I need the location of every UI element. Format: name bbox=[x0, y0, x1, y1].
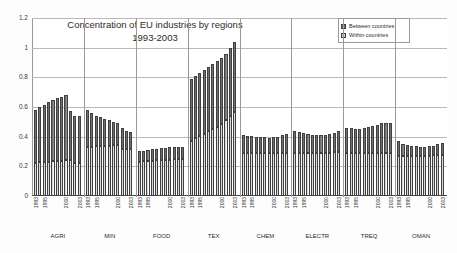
bar-segment-within bbox=[177, 159, 180, 196]
table-row bbox=[69, 18, 72, 196]
bar-segment-between bbox=[164, 148, 167, 160]
bar-segment-between bbox=[285, 134, 288, 152]
table-row bbox=[401, 18, 404, 196]
table-row bbox=[350, 18, 353, 196]
bar-segment-within bbox=[64, 160, 67, 196]
bar-segment-within bbox=[328, 153, 331, 196]
table-row bbox=[99, 18, 102, 196]
bar-segment-between bbox=[306, 134, 309, 153]
bar-segment-between bbox=[95, 116, 98, 147]
table-row bbox=[432, 18, 435, 196]
table-row bbox=[198, 18, 201, 196]
bar-segment-between bbox=[371, 126, 374, 153]
table-row bbox=[160, 18, 163, 196]
bar-segment-between bbox=[389, 123, 392, 152]
bar-segment-between bbox=[333, 133, 336, 152]
bar-segment-between bbox=[250, 136, 253, 153]
bar-segment-within bbox=[173, 159, 176, 196]
bar-segment-within bbox=[216, 127, 219, 196]
x-axis-year-label: 2003 bbox=[284, 197, 290, 208]
bar-segment-between bbox=[419, 147, 422, 156]
bar-segment-between bbox=[51, 100, 54, 162]
x-axis-group-label: TREQ bbox=[343, 233, 395, 239]
bar-segment-between bbox=[315, 135, 318, 153]
table-row bbox=[406, 18, 409, 196]
bar-segment-within bbox=[43, 162, 46, 196]
table-row bbox=[103, 18, 106, 196]
bar-segment-within bbox=[155, 160, 158, 196]
bar-segment-within bbox=[224, 120, 227, 196]
bar-segment-within bbox=[116, 145, 119, 196]
table-row bbox=[224, 18, 227, 196]
x-axis-year-label: 2000 bbox=[63, 197, 69, 208]
bar-segment-within bbox=[220, 124, 223, 196]
bar-segment-between bbox=[224, 54, 227, 121]
group-separator bbox=[343, 18, 344, 197]
table-row bbox=[216, 18, 219, 196]
bar-segment-between bbox=[255, 137, 258, 153]
bar-segment-within bbox=[203, 134, 206, 196]
bar-segment-between bbox=[311, 135, 314, 153]
table-row bbox=[319, 18, 322, 196]
bar-segment-within bbox=[401, 156, 404, 196]
table-row bbox=[354, 18, 357, 196]
x-axis-year-label: 1995 bbox=[145, 197, 151, 208]
group-separator bbox=[395, 18, 396, 197]
bar-segment-within bbox=[38, 162, 41, 196]
bar-segment-between bbox=[73, 116, 76, 163]
table-row bbox=[324, 18, 327, 196]
x-axis-group-label: AGRI bbox=[32, 233, 84, 239]
x-axis-year-label: 2000 bbox=[115, 197, 121, 208]
table-row bbox=[328, 18, 331, 196]
bar-segment-within bbox=[108, 146, 111, 196]
x-axis-year-label: 2003 bbox=[440, 197, 446, 208]
bar-segment-between bbox=[173, 147, 176, 159]
bar-segment-within bbox=[410, 156, 413, 196]
bar-segment-within bbox=[138, 162, 141, 196]
table-row bbox=[173, 18, 176, 196]
x-axis-year-label: 1995 bbox=[197, 197, 203, 208]
bar-segment-within bbox=[406, 156, 409, 196]
bar-segment-between bbox=[293, 131, 296, 153]
x-axis-year-label: 2000 bbox=[375, 197, 381, 208]
bar-segment-within bbox=[306, 153, 309, 196]
x-axis-year-label: 2000 bbox=[323, 197, 329, 208]
table-row bbox=[315, 18, 318, 196]
bar-segment-within bbox=[190, 141, 193, 196]
bar-segment-between bbox=[415, 146, 418, 155]
x-axis-year-label: 2000 bbox=[271, 197, 277, 208]
group-separator bbox=[188, 18, 189, 197]
bar-segment-between bbox=[142, 151, 145, 162]
bar-segment-between bbox=[86, 110, 89, 147]
group-separator bbox=[84, 18, 85, 197]
table-row bbox=[112, 18, 115, 196]
bar-segment-within bbox=[56, 161, 59, 196]
table-row bbox=[146, 18, 149, 196]
bar-segment-between bbox=[47, 102, 50, 161]
bar-segment-between bbox=[60, 97, 63, 161]
table-row bbox=[181, 18, 184, 196]
x-axis-year-label: 1995 bbox=[405, 197, 411, 208]
bar-segment-between bbox=[146, 150, 149, 161]
bar-segment-within bbox=[276, 153, 279, 196]
table-row bbox=[43, 18, 46, 196]
table-row bbox=[121, 18, 124, 196]
bar-segment-between bbox=[168, 147, 171, 159]
bar-segment-within bbox=[389, 153, 392, 196]
table-row bbox=[436, 18, 439, 196]
bar-segment-within bbox=[415, 156, 418, 196]
bar-segment-between bbox=[207, 67, 210, 131]
x-axis-year-label: 1995 bbox=[42, 197, 48, 208]
bar-segment-within bbox=[47, 162, 50, 196]
x-axis-group-label: TEX bbox=[188, 233, 240, 239]
x-axis-year-label: 2003 bbox=[232, 197, 238, 208]
bar-segment-within bbox=[319, 153, 322, 196]
table-row bbox=[229, 18, 232, 196]
table-row bbox=[384, 18, 387, 196]
bar-segment-between bbox=[376, 125, 379, 153]
bar-segment-within bbox=[432, 155, 435, 196]
bar-segment-between bbox=[259, 137, 262, 153]
table-row bbox=[242, 18, 245, 196]
bar-segment-between bbox=[38, 107, 41, 162]
table-row bbox=[138, 18, 141, 196]
